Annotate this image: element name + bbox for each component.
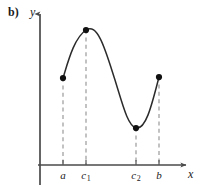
x-axis-label: x — [188, 168, 193, 180]
panel-label: b) — [8, 6, 19, 18]
axes — [38, 14, 186, 185]
tick-label-a: a — [60, 170, 66, 181]
tick-label-c2-subscript: 2 — [137, 174, 141, 183]
point-b — [156, 74, 162, 80]
point-a — [60, 75, 66, 81]
point-c2 — [133, 125, 139, 131]
tick-label-b-text: b — [156, 169, 162, 181]
tick-label-b: b — [156, 170, 162, 181]
tick-label-c1: c1 — [81, 170, 90, 183]
tick-label-a-text: a — [60, 169, 66, 181]
dashed-drop-lines — [63, 30, 159, 165]
point-c1 — [83, 27, 89, 33]
tick-label-c1-subscript: 1 — [87, 174, 91, 183]
function-curve — [63, 29, 159, 128]
plot-canvas — [0, 0, 199, 194]
y-axis-label: y — [30, 6, 35, 18]
figure-panel-b: b) y x a c1 c2 b — [0, 0, 199, 194]
tick-label-c2: c2 — [131, 170, 140, 183]
